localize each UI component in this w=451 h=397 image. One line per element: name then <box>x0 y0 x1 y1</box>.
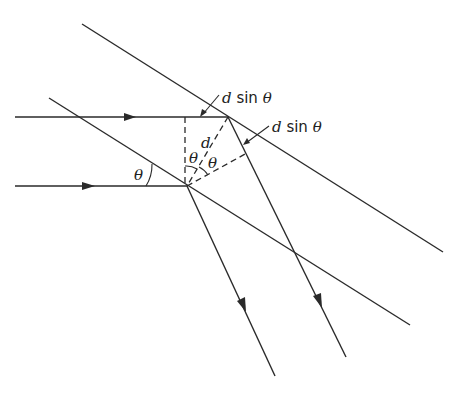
spacing-d-label: d <box>201 134 211 152</box>
path-diff-right-arrow-icon <box>243 138 250 145</box>
reflected-arrow-top-icon <box>313 293 322 308</box>
incident-arrow-top-icon <box>124 113 136 121</box>
reflected-ray-bottom <box>187 186 275 376</box>
bragg-diffraction-diagram: d sin θ d sin θ d θ θ θ <box>0 0 451 397</box>
incident-angle-arc <box>146 164 152 186</box>
right-theta-label: θ <box>208 154 217 172</box>
incident-arrow-bottom-icon <box>82 182 95 190</box>
path-diff-right-label: d sin θ <box>272 118 322 136</box>
right-theta-arc <box>199 167 208 175</box>
upper-crystal-plane <box>82 24 443 252</box>
left-theta-label: θ <box>189 149 198 167</box>
lower-crystal-plane <box>49 98 410 325</box>
incident-theta-label: θ <box>134 166 143 184</box>
path-diff-top-label: d sin θ <box>222 89 272 107</box>
reflected-arrow-bottom-icon <box>237 297 246 312</box>
